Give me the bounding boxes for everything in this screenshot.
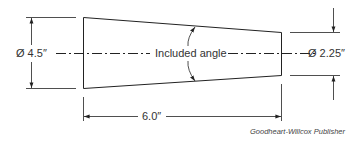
- included-angle-label: Included angle: [155, 47, 227, 59]
- publisher-credit: Goodheart-Willcox Publisher: [250, 127, 345, 136]
- small-diameter-label: Ø 2.25″: [308, 47, 345, 59]
- taper-diagram: Ø 4.5″ Ø 2.25″ Included angle 6.0″ Goodh…: [0, 0, 357, 141]
- length-dimension: [84, 84, 282, 121]
- large-diameter-label: Ø 4.5″: [16, 47, 47, 59]
- length-label: 6.0″: [142, 110, 161, 122]
